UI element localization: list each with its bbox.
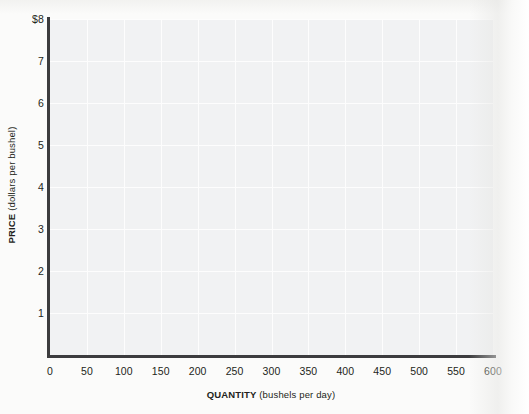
x-axis-tick-label: 200 (189, 365, 207, 377)
x-axis-tick-labels: 050100150200250300350400450500550600 (0, 365, 529, 381)
y-axis-title-unit: (dollars per bushel) (6, 127, 17, 211)
y-axis-tick-label: $8 (0, 13, 44, 25)
gridline-horizontal (50, 103, 493, 104)
gridline-horizontal (50, 229, 493, 230)
x-axis-tick-label: 600 (484, 365, 502, 377)
x-axis-tick-label: 400 (336, 365, 354, 377)
x-axis-title-bold: QUANTITY (207, 389, 257, 400)
x-axis-tick-label: 250 (226, 365, 244, 377)
y-axis-tick-label: 6 (0, 97, 44, 109)
gridline-horizontal (50, 313, 493, 314)
x-axis-tick-label: 450 (373, 365, 391, 377)
gridline-horizontal (50, 187, 493, 188)
x-axis-tick-label: 150 (152, 365, 170, 377)
x-axis-tick-label: 50 (81, 365, 93, 377)
x-axis-tick-label: 0 (47, 365, 53, 377)
x-axis-title-unit: (bushels per day) (259, 389, 335, 400)
gridline-horizontal (50, 19, 493, 20)
y-axis-tick-label: 2 (0, 265, 44, 277)
blank-supply-demand-chart: 1234567$8 050100150200250300350400450500… (0, 0, 529, 414)
plot-area (50, 19, 493, 355)
y-axis-tick-label: 1 (0, 307, 44, 319)
gridlines (50, 19, 493, 355)
x-axis-tick-label: 350 (299, 365, 317, 377)
gridline-horizontal (50, 271, 493, 272)
x-axis-line (47, 355, 496, 358)
y-axis-title: PRICE (dollars per bushel) (6, 127, 17, 244)
y-axis-line (47, 17, 50, 358)
x-axis-tick-label: 100 (115, 365, 133, 377)
gridline-horizontal (50, 61, 493, 62)
gridline-horizontal (50, 145, 493, 146)
x-axis-tick-label: 500 (410, 365, 428, 377)
x-axis-title: QUANTITY (bushels per day) (207, 389, 336, 400)
x-axis-tick-label: 550 (447, 365, 465, 377)
y-axis-title-bold: PRICE (6, 214, 17, 244)
x-axis-tick-label: 300 (263, 365, 281, 377)
y-axis-tick-label: 7 (0, 55, 44, 67)
